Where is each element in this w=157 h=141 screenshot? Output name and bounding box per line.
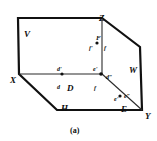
figure-container: V Z W Y H X D E F f' f d' d e' d″ f e' e… — [0, 0, 157, 141]
vertex-label-D: D — [67, 84, 74, 93]
figure-caption: (a) — [70, 127, 79, 135]
dot-e-low — [118, 94, 121, 97]
vertex-label-E: E — [121, 105, 127, 114]
point-label-f-top: f — [104, 45, 106, 51]
dot-d — [60, 72, 63, 75]
point-label-d-double-prime: d″ — [106, 74, 112, 80]
point-label-d-prime: d' — [57, 66, 62, 72]
vertex-label-H: H — [61, 104, 68, 113]
vertex-label-F: F — [96, 35, 101, 42]
point-label-d: d — [57, 84, 60, 90]
vertex-label-X: X — [10, 76, 16, 85]
point-label-f-prime-top: f' — [89, 45, 93, 51]
point-label-f-mid: f — [94, 85, 96, 91]
point-label-e-prime-low: e' — [114, 96, 118, 102]
point-label-e-double-prime: e″ — [124, 93, 130, 99]
dot-e-mid — [99, 72, 103, 76]
vertex-label-Z: Z — [99, 14, 105, 23]
point-label-e-prime-mid: e' — [93, 66, 97, 72]
vertex-label-Y: Y — [145, 112, 151, 121]
vertex-label-V: V — [24, 30, 30, 39]
vertex-label-W: W — [129, 66, 137, 75]
